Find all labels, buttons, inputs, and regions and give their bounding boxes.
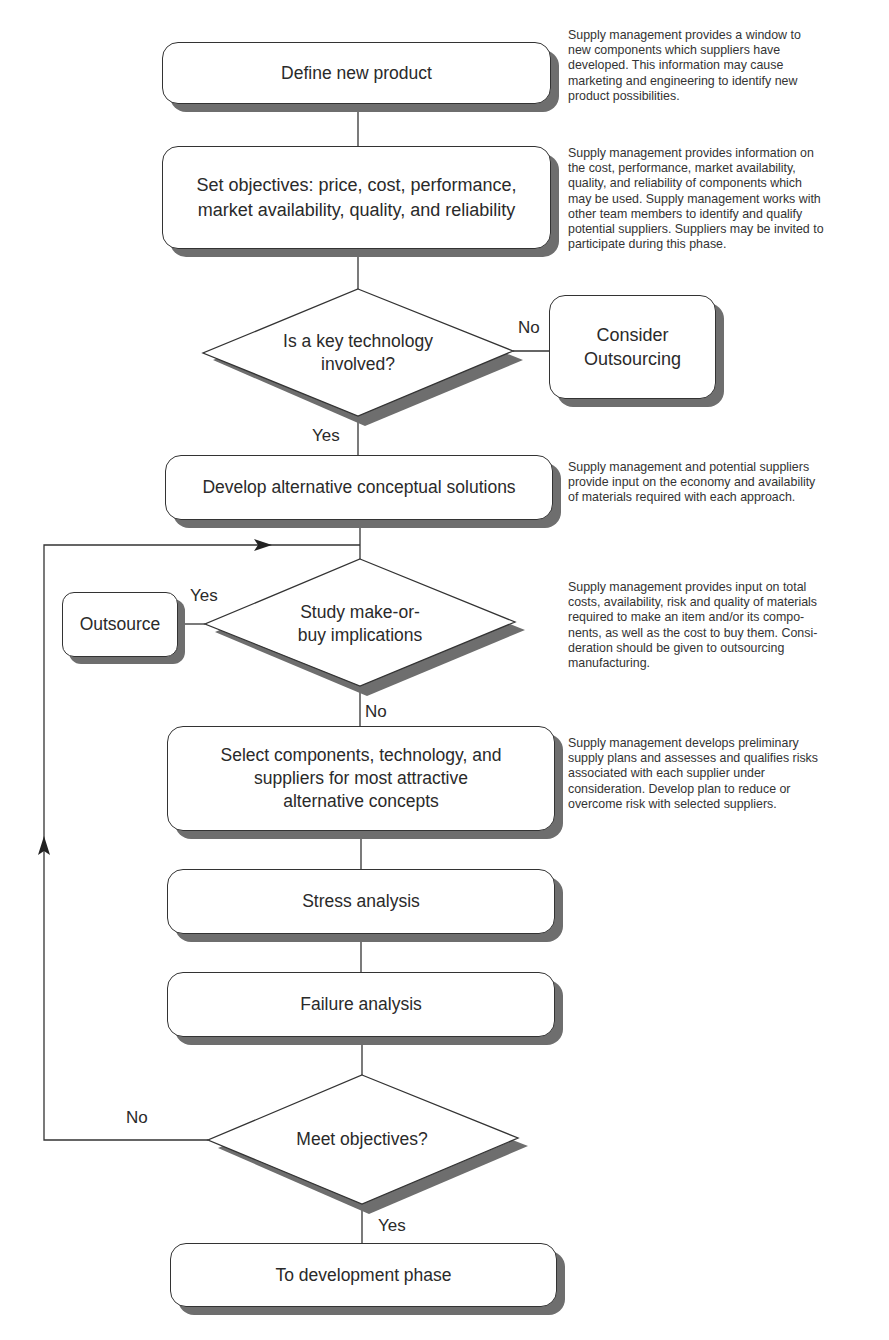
step-label: Set objectives: price, cost, performance… xyxy=(196,173,516,223)
edge-label-makebuy-yes: Yes xyxy=(190,586,218,606)
step-consider-outsourcing: Consider Outsourcing xyxy=(549,295,716,399)
edge-label-meetobj-no: No xyxy=(126,1108,148,1128)
note-define-new-product: Supply management provides a window to n… xyxy=(568,28,886,104)
step-set-objectives: Set objectives: price, cost, performance… xyxy=(162,146,551,249)
step-label: Consider Outsourcing xyxy=(584,323,681,371)
flowchart: Define new product Set objectives: price… xyxy=(0,0,889,1340)
decision-key-technology-label: Is a key technology involved? xyxy=(258,330,458,376)
step-label: Define new product xyxy=(281,62,432,85)
decision-make-or-buy-label: Study make-or- buy implications xyxy=(260,601,460,647)
step-stress-analysis: Stress analysis xyxy=(167,869,555,934)
edge-label-keytech-no: No xyxy=(518,318,540,338)
step-to-development-phase: To development phase xyxy=(170,1243,557,1307)
step-select-components: Select components, technology, and suppl… xyxy=(167,726,555,831)
step-label: Outsource xyxy=(80,613,161,636)
step-label: Develop alternative conceptual solutions xyxy=(202,476,515,499)
step-label: To development phase xyxy=(275,1264,451,1287)
step-label: Stress analysis xyxy=(302,890,420,913)
step-failure-analysis: Failure analysis xyxy=(167,972,555,1037)
step-outsource: Outsource xyxy=(62,592,178,657)
step-define-new-product: Define new product xyxy=(162,42,551,104)
step-label: Failure analysis xyxy=(300,993,422,1016)
step-develop-alternatives: Develop alternative conceptual solutions xyxy=(165,455,553,520)
edge-label-keytech-yes: Yes xyxy=(312,426,340,446)
step-label: Select components, technology, and suppl… xyxy=(221,744,502,813)
edge-label-meetobj-yes: Yes xyxy=(378,1216,406,1236)
decision-meet-objectives-label: Meet objectives? xyxy=(262,1128,462,1151)
note-set-objectives: Supply management provides information o… xyxy=(568,146,886,252)
note-develop-alternatives: Supply management and potential supplier… xyxy=(568,460,886,506)
edge-label-makebuy-no: No xyxy=(365,702,387,722)
note-select-components: Supply management develops preliminary s… xyxy=(568,736,886,812)
note-make-or-buy: Supply management provides input on tota… xyxy=(568,580,886,671)
